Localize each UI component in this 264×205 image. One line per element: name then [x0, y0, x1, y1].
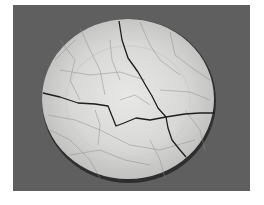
plate-photo [0, 0, 264, 205]
